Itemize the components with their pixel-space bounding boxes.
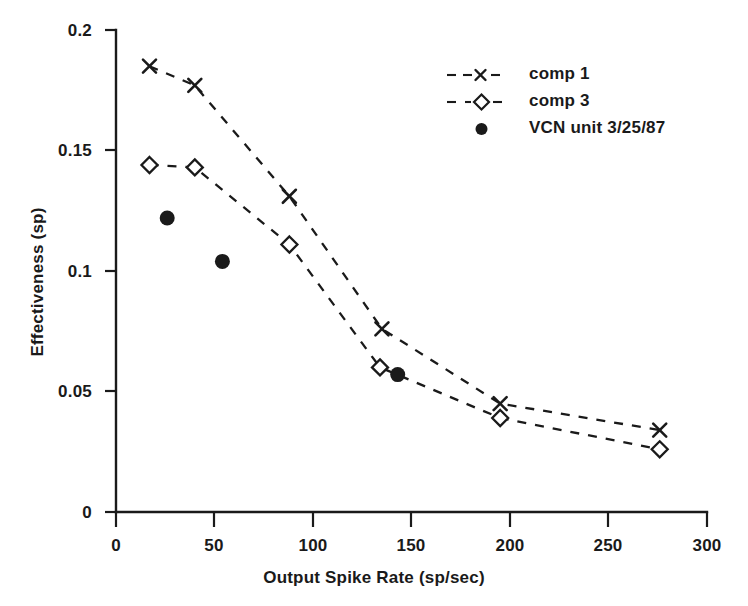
legend-label-comp-1: comp 1 <box>529 64 590 84</box>
y-axis-ticks <box>105 30 116 512</box>
data-point <box>160 211 175 226</box>
y-tick-label-1: 0.15 <box>8 141 92 161</box>
legend-label-comp-3: comp 3 <box>529 91 590 111</box>
x-tick-label-1: 50 <box>184 536 244 556</box>
legend-item-comp-1: comp 1 <box>443 64 723 91</box>
y-tick-label-4: 0 <box>8 503 92 523</box>
data-point <box>652 441 668 457</box>
x-tick-label-4: 200 <box>480 536 540 556</box>
x-tick-label-0: 0 <box>86 536 146 556</box>
diamond-marker-icon <box>443 91 523 113</box>
data-point <box>390 367 405 382</box>
y-tick-label-3: 0.05 <box>8 382 92 402</box>
legend: comp 1 comp 3 VCN unit 3/25/87 <box>443 64 723 145</box>
legend-item-comp-3: comp 3 <box>443 91 723 118</box>
legend-label-vcn-unit: VCN unit 3/25/87 <box>529 118 665 138</box>
x-axis-title: Output Spike Rate (sp/sec) <box>0 568 748 588</box>
y-tick-label-2: 0.1 <box>8 262 92 282</box>
data-point <box>143 60 156 73</box>
x-marker-icon <box>443 64 523 86</box>
legend-item-vcn-unit: VCN unit 3/25/87 <box>443 118 723 145</box>
x-tick-label-3: 150 <box>381 536 441 556</box>
data-point <box>187 159 203 175</box>
data-point <box>494 397 507 410</box>
series-line-1 <box>150 165 660 449</box>
y-tick-label-0: 0.2 <box>8 21 92 41</box>
filled-circle-marker-icon <box>443 118 523 140</box>
data-point <box>281 237 297 253</box>
data-point <box>375 322 388 335</box>
data-point <box>215 254 230 269</box>
x-tick-label-5: 250 <box>578 536 638 556</box>
chart-figure: 0.2 0.15 0.1 0.05 0 0 50 100 150 200 250… <box>0 0 748 606</box>
x-axis-ticks <box>116 512 707 527</box>
data-point <box>283 190 296 203</box>
data-point <box>188 79 201 92</box>
x-tick-label-6: 300 <box>677 536 737 556</box>
data-point <box>372 359 388 375</box>
x-tick-label-2: 100 <box>283 536 343 556</box>
data-point <box>142 157 158 173</box>
data-point <box>492 410 508 426</box>
y-axis-title: Effectiveness (sp) <box>28 162 48 402</box>
